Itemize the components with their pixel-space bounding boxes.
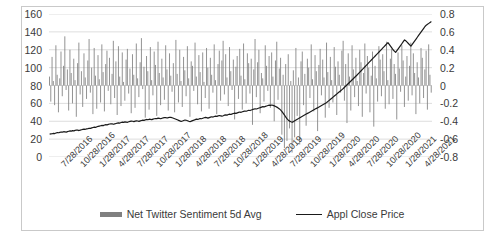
y-tick-right: 0.8	[440, 9, 474, 19]
chart-container: 020406080100120140160 -0.8-0.6-0.4-0.200…	[0, 0, 504, 245]
y-tick-right: 0	[440, 81, 474, 91]
y-tick-left: 40	[8, 116, 42, 126]
y-tick-right: -0.2	[440, 98, 474, 108]
y-tick-right: 0.6	[440, 27, 474, 37]
y-tick-left: 60	[8, 98, 42, 108]
y-tick-left: 140	[8, 27, 42, 37]
y-tick-right: 0.2	[440, 63, 474, 73]
y-tick-right: -0.4	[440, 116, 474, 126]
legend-item-sentiment[interactable]: Net Twitter Sentiment 5d Avg	[100, 208, 262, 220]
y-tick-left: 80	[8, 81, 42, 91]
legend-label-sentiment: Net Twitter Sentiment 5d Avg	[127, 208, 262, 220]
y-tick-left: 100	[8, 63, 42, 73]
y-tick-left: 20	[8, 134, 42, 144]
y-tick-left: 0	[8, 152, 42, 162]
line-swatch-icon	[296, 214, 322, 215]
y-tick-left: 160	[8, 9, 42, 19]
chart-legend: Net Twitter Sentiment 5d Avg Appl Close …	[0, 206, 504, 222]
bar-swatch-icon	[100, 212, 122, 217]
legend-item-price[interactable]: Appl Close Price	[296, 208, 405, 220]
y-tick-right: -0.8	[440, 152, 474, 162]
legend-label-price: Appl Close Price	[327, 208, 405, 220]
y-tick-left: 120	[8, 45, 42, 55]
y-tick-right: 0.4	[440, 45, 474, 55]
